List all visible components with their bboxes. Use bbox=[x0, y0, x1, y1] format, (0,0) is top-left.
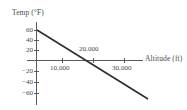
plot-area bbox=[0, 0, 187, 110]
chart-screenshot: Temp (°F) Altitude (ft) 60 40 20 −20 −40… bbox=[0, 0, 187, 110]
temperature-trend-line bbox=[37, 30, 148, 99]
